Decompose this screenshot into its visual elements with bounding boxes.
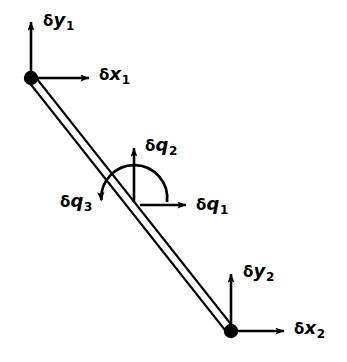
delta-symbol: δ bbox=[60, 193, 71, 211]
variable-symbol: q bbox=[71, 190, 84, 211]
subscript: 3 bbox=[84, 200, 93, 214]
subscript: 1 bbox=[220, 203, 229, 217]
delta-symbol: δ bbox=[43, 12, 54, 30]
delta-symbol: δ bbox=[145, 137, 156, 155]
label-delta-q2: δq2 bbox=[145, 136, 178, 157]
label-delta-y1: δy1 bbox=[43, 11, 75, 32]
variable-symbol: x bbox=[110, 63, 122, 84]
variable-symbol: y bbox=[54, 9, 66, 30]
label-delta-q1: δq1 bbox=[196, 195, 229, 216]
label-delta-y2: δy2 bbox=[243, 262, 275, 283]
beam-dof-figure: δy1 δx1 δq2 δq1 δq3 δy2 δx2 bbox=[0, 0, 347, 362]
delta-symbol: δ bbox=[196, 196, 207, 214]
label-delta-q3: δq3 bbox=[60, 192, 93, 213]
label-delta-x1: δx1 bbox=[99, 65, 130, 86]
subscript: 2 bbox=[317, 327, 326, 341]
figure-canvas bbox=[0, 0, 347, 362]
delta-symbol: δ bbox=[99, 66, 110, 84]
variable-symbol: y bbox=[254, 260, 266, 281]
variable-symbol: q bbox=[156, 134, 169, 155]
subscript: 1 bbox=[66, 19, 75, 33]
subscript: 2 bbox=[266, 270, 275, 284]
subscript: 1 bbox=[122, 73, 131, 87]
variable-symbol: x bbox=[305, 317, 317, 338]
delta-symbol: δ bbox=[294, 320, 305, 338]
variable-symbol: q bbox=[207, 193, 220, 214]
label-delta-x2: δx2 bbox=[294, 319, 325, 340]
subscript: 2 bbox=[169, 144, 178, 158]
delta-symbol: δ bbox=[243, 263, 254, 281]
